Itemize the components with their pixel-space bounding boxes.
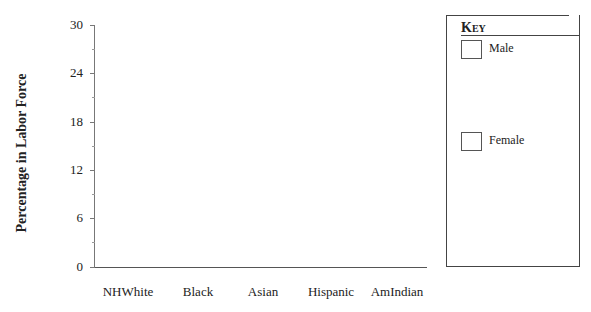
y-tick-12: [90, 170, 95, 171]
y-minor-tick: [92, 194, 95, 195]
y-minor-tick: [92, 97, 95, 98]
y-minor-tick: [92, 49, 95, 50]
legend-label-female: Female: [489, 133, 524, 148]
y-tick-label: 18: [40, 115, 83, 129]
y-tick-label: 12: [40, 163, 83, 177]
y-tick-0: [90, 267, 95, 268]
x-label-nhwhite: NHWhite: [88, 284, 168, 300]
y-tick-label: 0: [40, 260, 83, 274]
legend-title: Key: [461, 20, 486, 36]
y-tick-label: 24: [40, 66, 83, 80]
y-tick-30: [90, 25, 95, 26]
y-tick-18: [90, 122, 95, 123]
y-tick-label: 6: [40, 211, 83, 225]
legend-swatch-female[interactable]: [461, 132, 482, 151]
legend-title-underline: [461, 35, 579, 36]
x-label-amindian: AmIndian: [357, 284, 437, 300]
y-axis-title: Percentage in Labor Force: [14, 33, 30, 273]
y-tick-24: [90, 73, 95, 74]
y-minor-tick: [92, 146, 95, 147]
legend-top-border: [446, 15, 569, 16]
legend-swatch-male[interactable]: [461, 40, 482, 59]
x-axis-line: [94, 267, 427, 268]
legend-label-male: Male: [489, 41, 514, 56]
y-tick-6: [90, 218, 95, 219]
y-minor-tick: [92, 242, 95, 243]
y-tick-label: 30: [40, 18, 83, 32]
